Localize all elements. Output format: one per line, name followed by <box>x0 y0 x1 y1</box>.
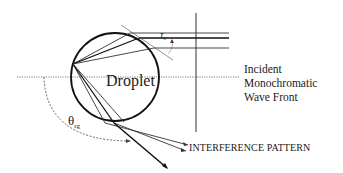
internal-ray-2 <box>73 38 139 64</box>
arrowhead-icon <box>183 142 188 146</box>
exit-ray-main <box>114 123 167 168</box>
incident-line-2: Monochromatic <box>244 76 317 90</box>
interference-pattern-label: INTERFERENCE PATTERN <box>189 142 310 153</box>
rainbow-scattering-diagram: Droplet Incident Monochromatic Wave Fron… <box>0 0 343 173</box>
incident-line-3: Wave Front <box>244 90 317 104</box>
theta-rainbow-angle-label: θrg <box>68 113 80 129</box>
tau-subscript: s <box>164 35 166 41</box>
tau-angle-label: τs <box>160 29 166 40</box>
incident-line-1: Incident <box>244 62 317 76</box>
incident-wave-front-label: Incident Monochromatic Wave Front <box>244 62 317 104</box>
arrowhead-icon <box>126 139 131 143</box>
arrowhead-icon <box>181 148 186 152</box>
exit-ray-2 <box>114 123 186 151</box>
droplet-label: Droplet <box>106 72 155 90</box>
theta-subscript: rg <box>74 122 80 130</box>
arrowhead-icon <box>170 39 174 43</box>
internal-ray-3 <box>73 48 154 64</box>
